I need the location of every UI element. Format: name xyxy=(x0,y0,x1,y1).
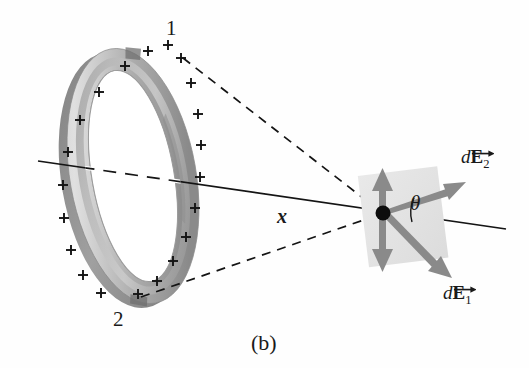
label-angle-theta: θ xyxy=(410,193,420,214)
field-point-dot xyxy=(376,206,391,221)
dE1-differential-d: d xyxy=(443,282,453,303)
dE2-differential-d: d xyxy=(461,146,471,167)
field-vector-patch xyxy=(358,166,449,267)
plus-sign xyxy=(163,40,173,50)
figure-caption: (b) xyxy=(251,332,277,354)
plus-sign xyxy=(78,270,88,280)
plus-sign xyxy=(59,213,69,223)
plus-sign xyxy=(96,288,106,298)
figure-canvas xyxy=(0,0,529,368)
label-axis-distance: x xyxy=(277,206,287,226)
plus-sign xyxy=(186,78,196,88)
label-vector-dE2: d E2 xyxy=(461,147,489,170)
physics-figure-charged-ring: 1 2 x θ d E2 d E1 (b) xyxy=(0,0,529,368)
plus-sign xyxy=(143,46,153,56)
label-point-2: 2 xyxy=(113,309,124,330)
dE2-field-symbol: E xyxy=(471,147,484,166)
dE1-field-symbol: E xyxy=(453,283,466,302)
label-vector-dE1: d E1 xyxy=(443,283,471,306)
plus-sign xyxy=(176,53,186,63)
dE1-subscript: 1 xyxy=(465,293,471,307)
ray-from-point1 xyxy=(183,58,381,212)
plus-sign xyxy=(193,109,203,119)
plus-sign xyxy=(196,140,206,150)
plus-sign xyxy=(66,245,76,255)
label-point-1: 1 xyxy=(166,18,177,39)
dE2-subscript: 2 xyxy=(483,157,489,171)
